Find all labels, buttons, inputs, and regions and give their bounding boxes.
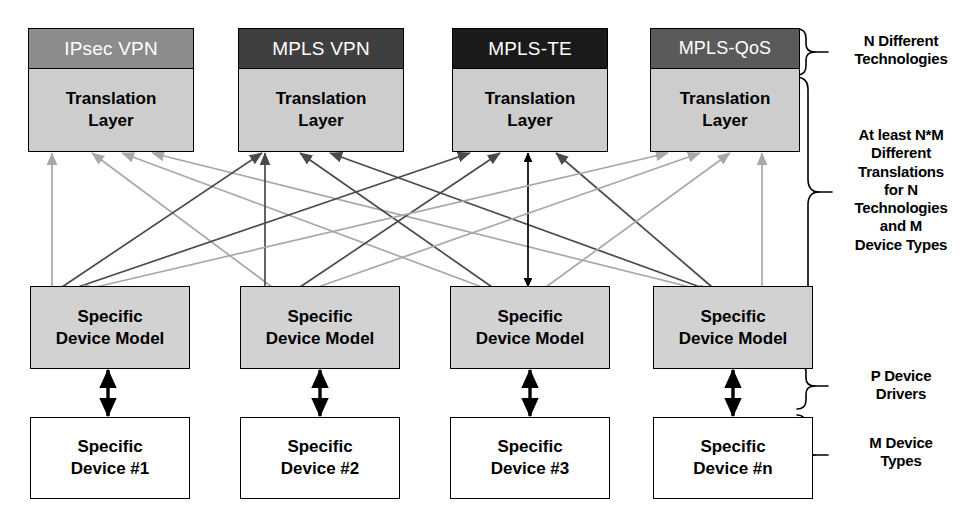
technology-header-mpls-qos: MPLS-QoS: [651, 29, 799, 69]
translation-layer-mpls-te: Translation Layer: [453, 69, 607, 151]
specific-device-3[interactable]: Specific Device #3: [450, 417, 610, 499]
model-line-2: Device Model: [679, 328, 788, 350]
specific-device-1[interactable]: Specific Device #1: [30, 417, 190, 499]
specific-device-model-3[interactable]: Specific Device Model: [450, 286, 610, 369]
model-line-1: Specific: [77, 306, 142, 328]
model-line-1: Specific: [700, 306, 765, 328]
annotation-line: Device Types: [833, 236, 969, 254]
translation-layer-ipsec-vpn: Translation Layer: [29, 69, 193, 151]
translation-line-1: Translation: [485, 88, 576, 110]
model-line-2: Device Model: [476, 328, 585, 350]
translation-layer-mpls-vpn: Translation Layer: [239, 69, 403, 151]
device-line-2: Device #3: [491, 458, 569, 480]
device-line-1: Specific: [497, 436, 562, 458]
specific-device-model-4[interactable]: Specific Device Model: [653, 286, 813, 369]
annotation-line: At least N*M: [833, 126, 969, 144]
diagram-canvas: IPsec VPN Translation Layer MPLS VPN Tra…: [0, 0, 972, 521]
annotation-p-device-drivers: P Device Drivers: [833, 367, 969, 404]
translation-layer-mpls-qos: Translation Layer: [651, 69, 799, 151]
translation-line-2: Layer: [88, 110, 133, 132]
annotation-line: Technologies: [833, 50, 969, 68]
model-line-2: Device Model: [56, 328, 165, 350]
annotation-line: Technologies: [833, 199, 969, 217]
translation-line-1: Translation: [66, 88, 157, 110]
technology-column-mpls-vpn[interactable]: MPLS VPN Translation Layer: [238, 28, 404, 152]
translation-line-1: Translation: [680, 88, 771, 110]
annotation-line: Types: [833, 452, 969, 470]
technology-header-mpls-vpn: MPLS VPN: [239, 29, 403, 69]
annotation-line: and M: [833, 217, 969, 235]
translation-line-2: Layer: [702, 110, 747, 132]
technology-header-ipsec-vpn: IPsec VPN: [29, 29, 193, 69]
technology-column-mpls-qos[interactable]: MPLS-QoS Translation Layer: [650, 28, 800, 152]
model-line-1: Specific: [287, 306, 352, 328]
translation-line-2: Layer: [507, 110, 552, 132]
annotation-line: Drivers: [833, 385, 969, 403]
translation-line-1: Translation: [276, 88, 367, 110]
device-line-1: Specific: [287, 436, 352, 458]
specific-device-4[interactable]: Specific Device #n: [653, 417, 813, 499]
device-line-1: Specific: [77, 436, 142, 458]
device-line-2: Device #2: [281, 458, 359, 480]
annotation-line: M Device: [833, 434, 969, 452]
annotation-n-different-technologies: N Different Technologies: [833, 32, 969, 69]
annotation-line: N Different: [833, 32, 969, 50]
technology-column-ipsec-vpn[interactable]: IPsec VPN Translation Layer: [28, 28, 194, 152]
specific-device-2[interactable]: Specific Device #2: [240, 417, 400, 499]
technology-header-mpls-te: MPLS-TE: [453, 29, 607, 69]
model-line-1: Specific: [497, 306, 562, 328]
annotation-line: Translations: [833, 163, 969, 181]
device-line-2: Device #1: [71, 458, 149, 480]
annotation-at-least-nm-translations: At least N*M Different Translations for …: [833, 126, 969, 254]
device-line-1: Specific: [700, 436, 765, 458]
annotation-line: for N: [833, 181, 969, 199]
technology-column-mpls-te[interactable]: MPLS-TE Translation Layer: [452, 28, 608, 152]
annotation-m-device-types: M Device Types: [833, 434, 969, 471]
device-line-2: Device #n: [693, 458, 772, 480]
model-line-2: Device Model: [266, 328, 375, 350]
annotation-line: P Device: [833, 367, 969, 385]
translation-line-2: Layer: [298, 110, 343, 132]
annotation-line: Different: [833, 144, 969, 162]
specific-device-model-2[interactable]: Specific Device Model: [240, 286, 400, 369]
specific-device-model-1[interactable]: Specific Device Model: [30, 286, 190, 369]
